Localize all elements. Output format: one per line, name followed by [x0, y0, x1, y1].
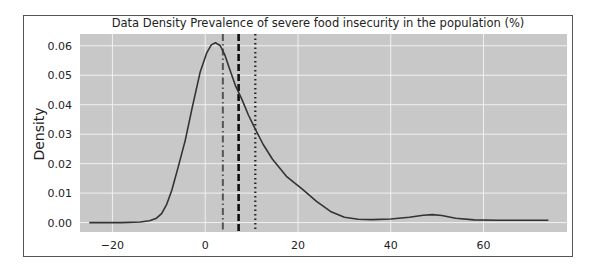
y-tick-label: 0.05: [48, 69, 73, 82]
y-axis-label: Density: [31, 107, 47, 160]
y-tick-label: 0.03: [48, 128, 73, 141]
x-tick-label: 0: [202, 239, 209, 252]
chart-title: Data Density Prevalence of severe food i…: [112, 16, 525, 30]
y-tick-label: 0.00: [48, 217, 73, 230]
x-tick-label: −20: [101, 239, 124, 252]
x-axis-ticks: −200204060: [101, 239, 491, 252]
plot-area: [80, 34, 567, 232]
y-tick-label: 0.06: [48, 40, 73, 53]
y-tick-label: 0.01: [48, 187, 73, 200]
y-axis-ticks: 0.000.010.020.030.040.050.06: [48, 40, 73, 230]
density-chart: −200204060 0.000.010.020.030.040.050.06 …: [0, 0, 595, 273]
y-tick-label: 0.04: [48, 99, 73, 112]
x-tick-label: 40: [384, 239, 398, 252]
x-tick-label: 60: [477, 239, 491, 252]
y-tick-label: 0.02: [48, 158, 73, 171]
x-tick-label: 20: [291, 239, 305, 252]
